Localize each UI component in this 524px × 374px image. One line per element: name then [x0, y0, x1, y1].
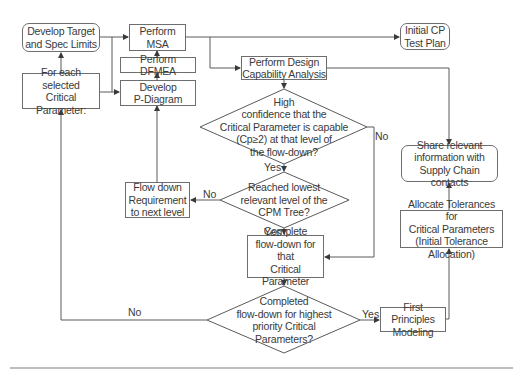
design-capability-node: Perform Design Capability Analysis [241, 56, 327, 80]
decision-lowest-level-text: Reached lowest relevant level of the CPM… [234, 178, 334, 222]
first-principles-node: First Principles Modeling [380, 307, 446, 332]
bottom-rule [10, 367, 513, 369]
flow-down-requirement-node: Flow down Requirement to next level [125, 182, 190, 218]
label-yes-completed: Yes [362, 308, 379, 320]
perform-msa-node: Perform MSA [129, 24, 186, 51]
share-info-node: Share relevant information with Supply C… [401, 145, 498, 182]
label-no-lowest-level: No [203, 188, 216, 200]
develop-target-node: Develop Target and Spec Limits [22, 23, 100, 52]
decision-high-confidence-text: High confidence that the Critical Parame… [215, 92, 353, 162]
for-each-parameter-node: For each selected Critical Parameter: [22, 73, 100, 109]
complete-flowdown-node: Complete flow-down for that Critical Par… [247, 235, 324, 278]
decision-completed-text: Completed flow-down for highest priority… [226, 291, 342, 349]
allocate-tolerances-node: Allocate Tolerances for Critical Paramet… [400, 210, 503, 248]
label-yes-high-confidence: Yes [264, 161, 281, 173]
initial-cp-test-plan-node: Initial CP Test Plan [400, 23, 450, 50]
label-yes-lowest-level: Yes [264, 226, 281, 238]
perform-dfmea-node: Perform DFMEA [120, 57, 196, 73]
label-no-high-confidence: No [375, 130, 388, 142]
develop-pdiagram-node: Develop P-Diagram [120, 80, 196, 106]
label-no-completed: No [128, 306, 141, 318]
